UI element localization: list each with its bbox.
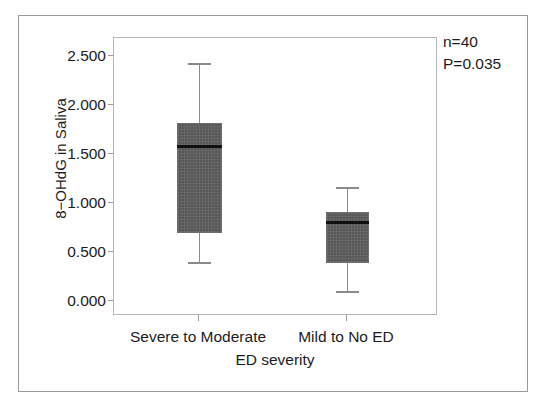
annotation-p-value: P=0.035 — [443, 55, 501, 73]
y-tick-label-0500: 0.500 — [46, 243, 106, 261]
y-tick-label-2000: 2.000 — [46, 96, 106, 114]
annotation-sample-size: n=40 — [443, 33, 478, 51]
boxplot-2-box — [326, 212, 369, 263]
boxplot-1-box — [177, 123, 222, 233]
boxplot-2-median — [326, 221, 369, 224]
y-tick-label-0000: 0.000 — [46, 292, 106, 310]
x-tick-label-mild-to-no-ed: Mild to No ED — [286, 328, 406, 346]
boxplot-1-median — [177, 145, 222, 148]
x-tick-label-severe-to-moderate: Severe to Moderate — [108, 328, 288, 346]
boxplot-1-whisker-cap-upper — [188, 63, 211, 65]
boxplot-1-whisker-cap-lower — [188, 262, 211, 264]
plot-area — [113, 37, 437, 315]
y-tick-label-1000: 1.000 — [46, 194, 106, 212]
x-tick-mark-mild-to-no-ed — [346, 315, 347, 321]
y-tick-label-1500: 1.500 — [46, 145, 106, 163]
boxplot-2-whisker-cap-upper — [336, 187, 359, 189]
y-tick-label-2500: 2.500 — [46, 47, 106, 65]
x-tick-mark-severe-to-moderate — [198, 315, 199, 321]
figure-root: 8−OHdG in Saliva 2.500 2.000 1.500 1.000… — [0, 0, 541, 402]
x-axis-title: ED severity — [113, 351, 437, 369]
boxplot-2-whisker-cap-lower — [336, 291, 359, 293]
